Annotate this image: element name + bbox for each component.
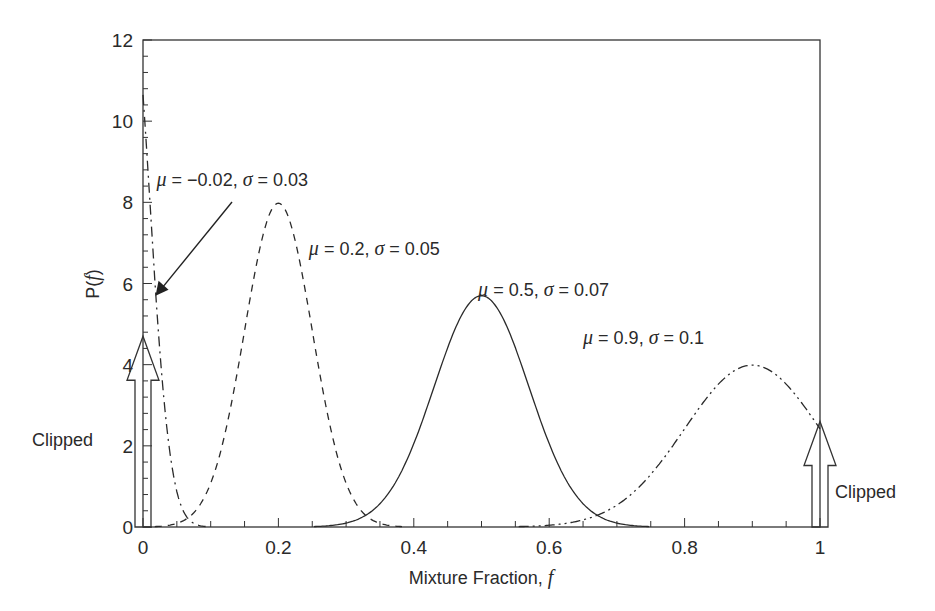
y-axis-ticks: 024681012 xyxy=(112,30,152,538)
clipped-arrows xyxy=(127,336,836,527)
x-tick-label: 0.6 xyxy=(536,537,562,558)
curve-annotations: μ = −0.02, σ = 0.03μ = 0.2, σ = 0.05μ = … xyxy=(156,168,705,349)
x-tick-label: 0.2 xyxy=(265,537,291,558)
y-tick-label: 12 xyxy=(112,30,133,51)
y-tick-label: 8 xyxy=(122,192,133,213)
x-tick-label: 0.4 xyxy=(401,537,428,558)
pdf-curve-dash-dot xyxy=(143,95,206,527)
clipped-label-right: Clipped xyxy=(835,482,896,502)
curve-label: μ = 0.9, σ = 0.1 xyxy=(582,326,704,349)
clipped-label-left: Clipped xyxy=(32,430,93,450)
x-axis-ticks: 00.20.40.60.81 xyxy=(138,518,826,558)
y-tick-label: 0 xyxy=(122,517,133,538)
y-tick-label: 2 xyxy=(122,436,133,457)
annotation-arrow-line xyxy=(162,202,232,289)
pdf-curve-dash-dot-dot xyxy=(519,365,820,526)
curve-label: μ = −0.02, σ = 0.03 xyxy=(156,168,309,191)
mixture-fraction-pdf-chart: 00.20.40.60.81 024681012 μ = −0.02, σ = … xyxy=(0,0,935,611)
y-axis-title: P(f) xyxy=(81,269,104,299)
y-tick-label: 6 xyxy=(122,274,133,295)
x-axis-title: Mixture Fraction, f xyxy=(409,566,556,589)
y-tick-label: 4 xyxy=(122,355,133,376)
y-tick-label: 10 xyxy=(112,111,133,132)
curve-label: μ = 0.5, σ = 0.07 xyxy=(477,278,609,301)
pdf-curves xyxy=(143,95,820,527)
curve-label: μ = 0.2, σ = 0.05 xyxy=(308,237,440,260)
x-tick-label: 0.8 xyxy=(671,537,697,558)
x-tick-label: 0 xyxy=(138,537,149,558)
x-tick-label: 1 xyxy=(815,537,826,558)
